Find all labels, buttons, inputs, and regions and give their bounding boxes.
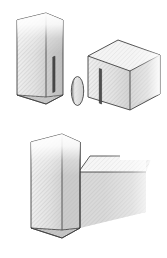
biscuit (71, 77, 83, 106)
technical-illustration-figure: Biscuit / spline joint exploded and asse… (0, 0, 167, 258)
left-board-slot (53, 56, 55, 92)
right-block-slot (99, 69, 101, 105)
biscuit-hatch (71, 77, 83, 106)
assembled-vertical-board (24, 132, 86, 238)
joint-illustration-svg (0, 0, 167, 258)
assembled-horizontal-top-fade-mask (120, 150, 167, 160)
left-board (10, 11, 70, 104)
